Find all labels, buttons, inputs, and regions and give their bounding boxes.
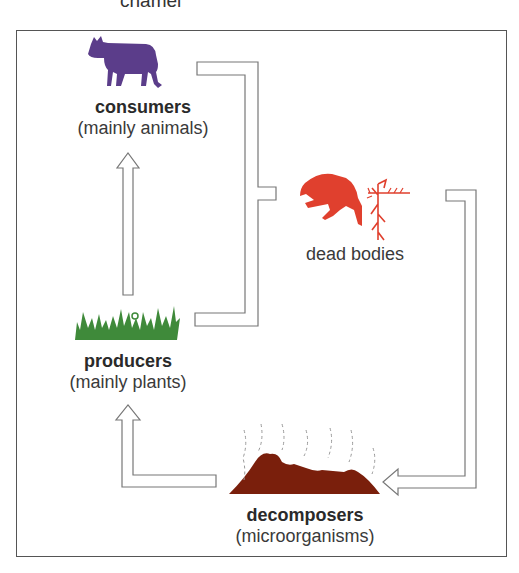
decomposing-mound-icon [229, 424, 380, 494]
node-decomposers: decomposers (microorganisms) [225, 505, 385, 547]
consumers-title: consumers [73, 97, 213, 118]
cycle-diagram [0, 0, 519, 573]
arrow-producers-to-consumers [117, 153, 139, 295]
node-consumers: consumers (mainly animals) [73, 97, 213, 139]
node-dead-bodies: dead bodies [290, 244, 420, 265]
arrow-decomposers-to-producers [116, 405, 216, 487]
dead-animal-and-plant-icon [300, 174, 410, 240]
decomposers-subtitle: (microorganisms) [225, 526, 385, 547]
decomposers-title: decomposers [225, 505, 385, 526]
grass-icon [75, 306, 180, 340]
consumers-subtitle: (mainly animals) [73, 118, 213, 139]
node-producers: producers (mainly plants) [58, 351, 198, 393]
cow-icon [88, 36, 162, 88]
arrow-dead-bodies-to-decomposers [383, 190, 476, 495]
dead-bodies-title: dead bodies [290, 244, 420, 265]
producers-title: producers [58, 351, 198, 372]
producers-subtitle: (mainly plants) [58, 372, 198, 393]
